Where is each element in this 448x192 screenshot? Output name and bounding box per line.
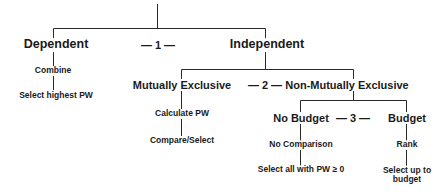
node-no-comparison: No Comparison [268,140,333,149]
node-rank: Rank [396,140,419,149]
node-budget: Budget [387,112,427,124]
node-non-mutually-exclusive: Non-Mutually Exclusive [284,79,409,91]
marker-3: — 3 — [335,112,371,124]
decision-tree-diagram: Dependent — 1 — Independent Combine Sele… [0,0,448,192]
node-no-budget: No Budget [272,112,330,124]
marker-1: — 1 — [140,39,176,51]
marker-2: — 2 — [247,79,283,91]
node-combine: Combine [34,66,72,75]
node-select-up-to-budget: Select up to budget [371,166,443,185]
node-independent: Independent [229,38,305,52]
node-dependent: Dependent [23,38,90,52]
node-mutually-exclusive: Mutually Exclusive [132,79,232,91]
node-select-highest-pw: Select highest PW [18,91,94,100]
node-calculate-pw: Calculate PW [154,109,210,118]
node-compare-select: Compare/Select [149,136,215,145]
node-select-all-pw-nonnegative: Select all with PW ≥ 0 [257,165,345,174]
